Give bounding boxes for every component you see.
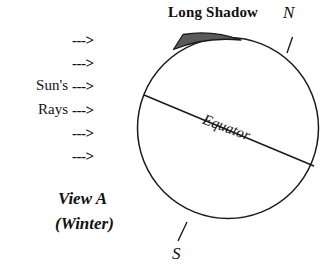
suns-rays-word-suns: Sun's <box>14 78 68 93</box>
south-pole-label: S <box>172 245 181 262</box>
season-label: (Winter) <box>55 215 114 232</box>
north-pole-tick <box>287 37 293 53</box>
sun-ray-arrow: ---> <box>72 126 94 141</box>
sun-ray-arrow: ---> <box>72 56 94 71</box>
south-pole-tick <box>178 222 187 241</box>
earth-winter-diagram: Long Shadow N S Equator Sun's Rays ---> … <box>0 0 332 274</box>
sun-ray-arrow: ---> <box>72 79 94 94</box>
view-label: View A <box>58 190 107 207</box>
long-shadow-wedge <box>174 33 242 50</box>
suns-rays-word-rays: Rays <box>14 102 68 117</box>
north-pole-label: N <box>283 4 294 21</box>
sun-ray-arrow: ---> <box>72 149 94 164</box>
long-shadow-label: Long Shadow <box>168 5 258 20</box>
sun-ray-arrow: ---> <box>72 33 94 48</box>
sun-ray-arrow: ---> <box>72 103 94 118</box>
diagram-canvas <box>0 0 332 274</box>
